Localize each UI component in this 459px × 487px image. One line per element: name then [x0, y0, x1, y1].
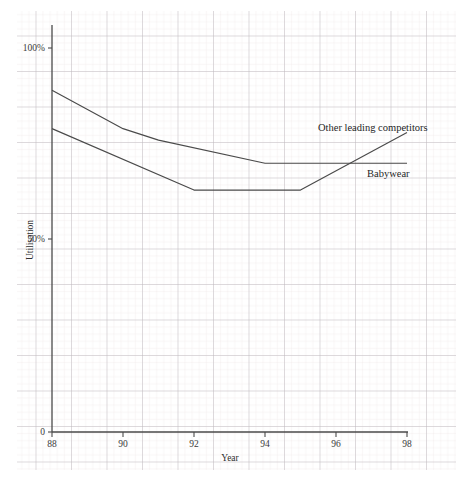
x-tick-label-94: 94 [260, 439, 270, 449]
chart-container: 100% 50% 0 88 90 92 94 96 98 Year Utilis… [0, 0, 459, 487]
series-label-babywear: Babywear [367, 168, 410, 179]
x-tick-label-90: 90 [118, 439, 128, 449]
x-tick-label-88: 88 [47, 439, 57, 449]
utilisation-line-chart: 100% 50% 0 88 90 92 94 96 98 Year Utilis… [0, 0, 459, 487]
series-label-other-leading-competitors: Other leading competitors [318, 122, 428, 133]
x-axis-title: Year [221, 453, 239, 463]
graph-paper-grid [17, 11, 456, 470]
y-tick-label-0: 0 [40, 427, 45, 437]
x-tick-label-92: 92 [189, 439, 199, 449]
y-axis-title: Utilisation [25, 220, 35, 260]
x-tick-label-98: 98 [402, 439, 412, 449]
x-tick-label-96: 96 [331, 439, 341, 449]
y-tick-label-100: 100% [23, 43, 45, 53]
